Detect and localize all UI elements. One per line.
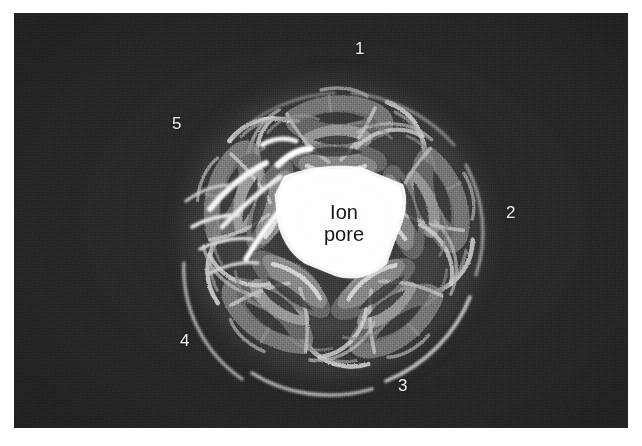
subunit-label-3: 3 [398,377,407,394]
ion-pore-label: Ion pore [294,201,394,246]
subunit-label-1: 1 [355,40,364,57]
ion-pore-label-line1: Ion [294,201,394,223]
subunit-label-3-text: 3 [398,376,407,395]
subunit-label-4: 4 [180,332,189,349]
subunit-label-5-text: 5 [172,114,181,133]
subunit-label-5: 5 [172,115,181,132]
figure-panel: Ion pore 1 2 3 4 5 [0,0,642,446]
subunit-label-1-text: 1 [355,39,364,58]
subunit-label-2: 2 [506,204,515,221]
micrograph-panel: Ion pore 1 2 3 4 5 [14,13,628,428]
subunit-label-2-text: 2 [506,203,515,222]
subunit-label-4-text: 4 [180,331,189,350]
ion-pore-label-line2: pore [294,223,394,245]
